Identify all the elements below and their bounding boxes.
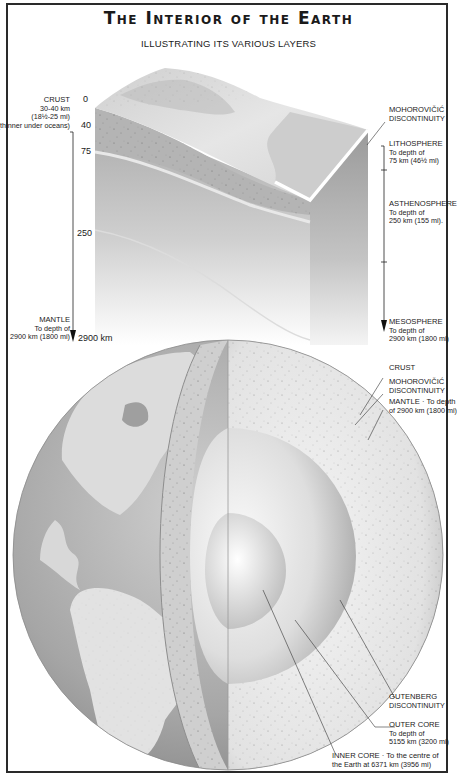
label-asthenosphere: ASTHENOSPHERE To depth of 250 km (155 mi… — [389, 200, 457, 226]
label-gutenberg: GUTENBERG DISCONTINUITY — [389, 693, 445, 710]
label-mohorovicic-top: MOHOROVIČIĆ DISCONTINUITY — [389, 106, 445, 123]
depth-tick-0: 0 — [83, 94, 88, 104]
depth-tick-250: 250 — [77, 228, 92, 238]
label-crust-sphere: CRUST — [389, 364, 415, 373]
label-inner-core: INNER CORE · To the centre of the Earth … — [332, 752, 439, 769]
label-lithosphere: LITHOSPHERE To depth of 75 km (46½ mi) — [389, 140, 443, 166]
label-crust-left: CRUST 30-40 km (18½-25 mi) (thinner unde… — [0, 96, 70, 130]
label-mantle-left: MANTLE To depth of 2900 km (1800 mi) — [10, 316, 70, 342]
label-mantle-sphere: MANTLE · To depth of 2900 km (1800 mi) — [389, 398, 457, 415]
depth-tick-2900: 2900 km — [78, 333, 113, 343]
depth-arrow-icon — [70, 330, 76, 342]
label-mesosphere: MESOSPHERE To depth of 2900 km (1800 mi) — [389, 318, 449, 344]
depth-tick-40: 40 — [81, 120, 91, 130]
label-outer-core: OUTER CORE To depth of 5155 km (3200 mi) — [389, 721, 449, 747]
crust-block-diagram — [95, 68, 368, 345]
label-mohorovicic-sphere: MOHOROVIČIĆ DISCONTINUITY — [389, 378, 445, 395]
depth-tick-75: 75 — [81, 146, 91, 156]
right-depth-arrow-icon — [381, 320, 387, 332]
